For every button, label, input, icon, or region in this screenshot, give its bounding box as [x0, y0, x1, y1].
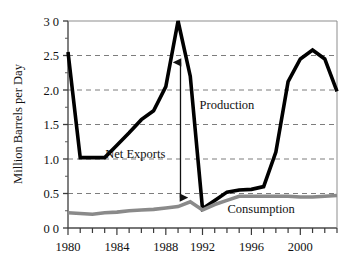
x-axis-ticks: 198019841988199219962000 [56, 228, 338, 254]
chart-container: 0 00.51.01.52.02.53 0 198019841988199219… [0, 0, 353, 269]
consumption-label: Consumption [228, 202, 296, 216]
x-tick-label: 1992 [190, 240, 215, 254]
x-tick-label: 2000 [288, 240, 313, 254]
x-tick-label: 1988 [153, 240, 178, 254]
production-label: Production [200, 98, 256, 112]
y-tick-label: 3 0 [43, 15, 59, 29]
y-tick-label: 0 0 [43, 222, 59, 236]
x-tick-label: 1996 [239, 240, 264, 254]
y-tick-label: 1.5 [43, 118, 59, 132]
y-axis-ticks: 0 00.51.01.52.02.53 0 [43, 15, 68, 236]
y-axis-title: Million Barrels per Day [11, 63, 25, 184]
line-chart: 0 00.51.01.52.02.53 0 198019841988199219… [0, 0, 353, 269]
net-exports-label: Net Exports [105, 147, 165, 161]
y-tick-label: 2.0 [43, 84, 59, 98]
x-tick-label: 1984 [104, 240, 130, 254]
y-tick-label: 2.5 [43, 49, 59, 63]
y-tick-label: 0.5 [43, 187, 59, 201]
x-tick-label: 1980 [56, 240, 81, 254]
y-tick-label: 1.0 [43, 153, 59, 167]
